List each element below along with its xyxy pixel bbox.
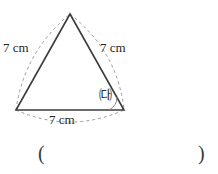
angle-marker-label: ㈐ bbox=[99, 88, 112, 101]
answer-blank-open-paren: ( bbox=[38, 143, 45, 163]
triangle-figure: 7 cm 7 cm 7 cm ㈐ ( ) bbox=[0, 0, 218, 174]
side-label-left: 7 cm bbox=[3, 41, 29, 54]
side-label-right: 7 cm bbox=[100, 41, 126, 54]
side-label-bottom: 7 cm bbox=[49, 113, 75, 126]
answer-blank-close-paren: ) bbox=[198, 143, 205, 163]
